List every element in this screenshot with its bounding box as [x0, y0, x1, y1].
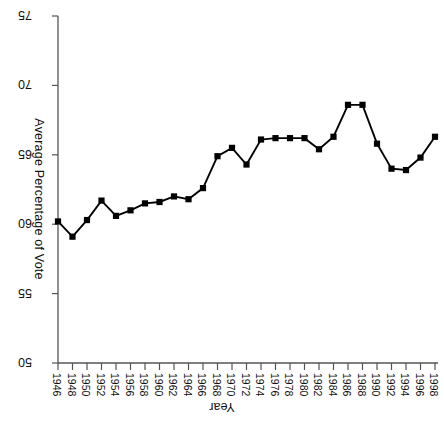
- x-tick-label: 1978: [283, 373, 295, 396]
- data-point-marker: [330, 134, 336, 140]
- y-tick-label: 50: [18, 355, 44, 369]
- x-tick-label: 1998: [428, 373, 440, 396]
- data-point-marker: [243, 161, 249, 167]
- chart-figure: Average Percentage of Vote Year 50556065…: [0, 0, 444, 425]
- data-point-marker: [272, 135, 278, 141]
- x-tick-label: 1984: [327, 373, 339, 396]
- data-point-marker: [287, 135, 293, 141]
- x-tick-label: 1980: [298, 373, 310, 396]
- data-point-marker: [345, 102, 351, 108]
- x-tick-label: 1964: [182, 373, 194, 396]
- data-point-marker: [69, 234, 75, 240]
- x-tick-label: 1994: [399, 373, 411, 396]
- line-chart-plot: [0, 0, 444, 425]
- data-point-marker: [229, 145, 235, 151]
- x-tick-label: 1962: [167, 373, 179, 396]
- x-tick-label: 1988: [356, 373, 368, 396]
- x-tick-label: 1966: [196, 373, 208, 396]
- x-tick-label: 1976: [269, 373, 281, 396]
- y-tick-label: 60: [18, 216, 44, 230]
- data-point-markers: [55, 102, 438, 240]
- y-tick-label: 70: [18, 77, 44, 91]
- data-point-marker: [374, 141, 380, 147]
- x-axis-title: Year: [0, 400, 444, 414]
- data-point-marker: [84, 217, 90, 223]
- axis-lines: [58, 16, 438, 363]
- data-point-marker: [417, 154, 423, 160]
- x-tick-label: 1948: [66, 373, 78, 396]
- x-tick-label: 1996: [414, 373, 426, 396]
- x-tick-label: 1974: [254, 373, 266, 396]
- data-point-marker: [214, 153, 220, 159]
- data-point-marker: [98, 198, 104, 204]
- x-tick-label: 1954: [109, 373, 121, 396]
- y-tick-label: 55: [18, 286, 44, 300]
- x-tick-label: 1952: [95, 373, 107, 396]
- x-tick-label: 1968: [211, 373, 223, 396]
- x-tick-label: 1972: [240, 373, 252, 396]
- x-axis-ticks: [58, 363, 435, 370]
- data-point-marker: [156, 199, 162, 205]
- data-point-marker: [55, 218, 61, 224]
- x-tick-label: 1960: [153, 373, 165, 396]
- x-tick-label: 1982: [312, 373, 324, 396]
- data-point-marker: [200, 185, 206, 191]
- x-tick-label: 1956: [124, 373, 136, 396]
- data-point-marker: [388, 166, 394, 172]
- y-tick-label: 75: [18, 8, 44, 22]
- data-point-marker: [185, 196, 191, 202]
- x-tick-label: 1990: [370, 373, 382, 396]
- data-point-marker: [127, 207, 133, 213]
- data-point-marker: [142, 200, 148, 206]
- data-point-marker: [258, 136, 264, 142]
- y-axis-title: Average Percentage of Vote: [32, 94, 46, 304]
- data-point-marker: [359, 102, 365, 108]
- x-tick-label: 1986: [341, 373, 353, 396]
- data-point-marker: [171, 193, 177, 199]
- x-tick-label: 1970: [225, 373, 237, 396]
- data-point-marker: [403, 167, 409, 173]
- data-point-marker: [432, 134, 438, 140]
- data-point-marker: [301, 135, 307, 141]
- y-axis-ticks: [52, 16, 58, 363]
- x-tick-label: 1992: [385, 373, 397, 396]
- y-tick-label: 65: [18, 147, 44, 161]
- data-point-marker: [316, 146, 322, 152]
- x-tick-label: 1958: [138, 373, 150, 396]
- data-point-marker: [113, 213, 119, 219]
- x-tick-label: 1946: [51, 373, 63, 396]
- x-tick-label: 1950: [80, 373, 92, 396]
